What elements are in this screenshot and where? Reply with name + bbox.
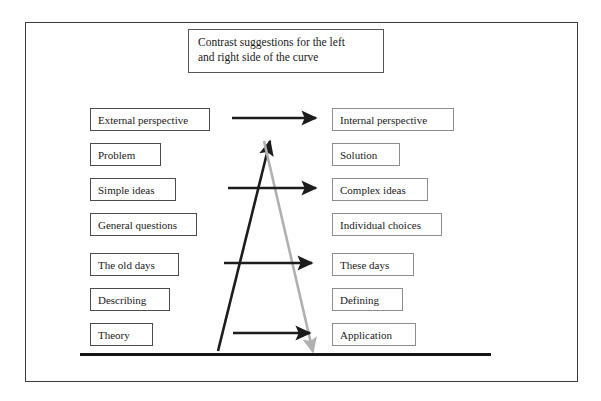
ascending-curve-arrow	[218, 141, 270, 351]
descending-curve-arrow	[264, 141, 313, 352]
arrow-layer	[0, 0, 601, 401]
diagram-canvas: Contrast suggestions for the left and ri…	[0, 0, 601, 401]
baseline-rule	[80, 353, 491, 356]
